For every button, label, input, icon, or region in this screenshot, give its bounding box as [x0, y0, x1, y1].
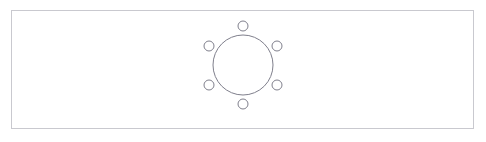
node-top: [238, 21, 248, 31]
node-upper-left: [204, 41, 214, 51]
canvas-root: [0, 0, 486, 142]
node-lower-left: [204, 80, 214, 90]
node-bottom: [238, 99, 248, 109]
core-ring: [213, 35, 273, 95]
molecule-diagram-canvas: [0, 0, 486, 142]
node-lower-right: [272, 80, 282, 90]
node-upper-right: [272, 41, 282, 51]
